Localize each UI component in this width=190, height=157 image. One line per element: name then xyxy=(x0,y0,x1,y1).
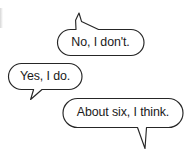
bubble-yes-i-do-label: Yes, I do. xyxy=(20,69,70,83)
speech-bubbles-canvas: No, I don't. Yes, I do. About six, I thi… xyxy=(0,0,190,157)
speech-bubble-illustration: No, I don't. Yes, I do. About six, I thi… xyxy=(0,0,190,157)
bubble-about-six-label: About six, I think. xyxy=(77,105,169,119)
bubble-yes-i-do: Yes, I do. xyxy=(9,64,83,100)
bubble-no-i-dont-label: No, I don't. xyxy=(71,35,129,49)
bubble-no-i-dont: No, I don't. xyxy=(58,13,145,56)
bubble-about-six: About six, I think. xyxy=(63,99,183,149)
